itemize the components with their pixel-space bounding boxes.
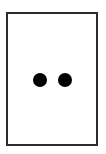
dot-right: [58, 73, 72, 87]
card-border: [6, 12, 98, 146]
dot-group: [8, 15, 96, 145]
figure-canvas: [0, 0, 106, 154]
dot-left: [33, 73, 47, 87]
